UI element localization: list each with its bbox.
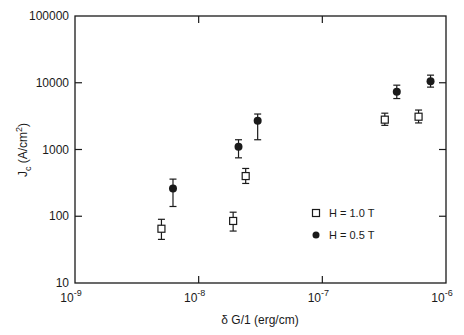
x-tick-label: 10-9 [60,288,81,305]
legend: H = 1.0 TH = 0.5 T [313,207,375,241]
open-square-marker [415,113,422,120]
open-square-marker [230,217,237,224]
filled-circle-marker [169,185,177,193]
chart: 1010010001000010000010-910-810-710-6 H =… [0,0,464,335]
data-point [415,110,422,123]
x-tick-label: 10-7 [308,288,329,305]
data-point [427,75,435,87]
data-point [230,212,237,231]
x-axis-title: δ G/1 (erg/cm) [221,313,298,327]
data-point [169,179,177,206]
y-tick-label: 10 [56,276,70,290]
data-point [235,140,243,158]
filled-circle-marker [235,143,243,151]
axis-ticks: 1010010001000010000010-910-810-710-6 [29,9,453,305]
filled-circle-marker [427,77,435,85]
open-square-marker [242,173,249,180]
filled-circle-marker [254,117,262,125]
data-point [242,168,249,183]
y-tick-label: 100 [49,209,69,223]
y-axis-title-rest: (A/cm [16,132,30,167]
y-tick-label: 1000 [42,143,69,157]
plot-frame [75,16,446,283]
x-tick-label: 10-8 [184,288,205,305]
legend-label: H = 1.0 T [329,207,375,219]
data-points [158,75,435,239]
y-axis-title-close: ) [16,123,30,127]
y-axis-title: Jc (A/cm2) [14,123,33,177]
filled-circle-marker [393,88,401,96]
legend-filled-circle-icon [313,232,320,239]
data-point [254,114,262,140]
y-tick-label: 10000 [36,76,70,90]
open-square-marker [158,225,165,232]
legend-open-square-icon [313,210,320,217]
y-tick-label: 100000 [29,9,69,23]
legend-label: H = 0.5 T [329,229,375,241]
open-square-marker [381,116,388,123]
data-point [381,113,388,125]
data-point [158,219,165,239]
axes [75,16,446,283]
x-tick-label: 10-6 [431,288,452,305]
data-point [393,85,401,98]
